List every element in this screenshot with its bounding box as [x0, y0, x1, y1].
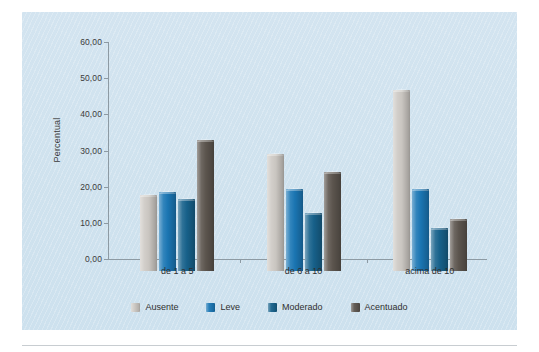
y-tick-mark — [104, 42, 108, 43]
legend-label: Acentuado — [365, 302, 408, 312]
bar-cap — [140, 194, 157, 197]
y-tick-mark — [104, 223, 108, 224]
x-axis-group-label: de 6 a 10 — [285, 266, 323, 276]
legend-label: Moderado — [282, 302, 323, 312]
y-tick-mark — [104, 114, 108, 115]
plot-area: 0,0010,0020,0030,0040,0050,0060,00 de 1 … — [108, 42, 488, 271]
bar-cap — [450, 218, 467, 221]
bar — [286, 189, 303, 271]
legend-item[interactable]: Moderado — [268, 302, 323, 312]
bar — [140, 195, 157, 271]
bar-cap — [393, 89, 410, 92]
bar-cap — [159, 191, 176, 194]
y-tick-mark — [104, 151, 108, 152]
bar-cap — [197, 139, 214, 142]
legend-swatch — [351, 303, 360, 312]
legend-swatch — [268, 303, 277, 312]
y-tick-label: 20,00 — [80, 182, 102, 192]
y-tick-label: 50,00 — [80, 73, 102, 83]
legend-swatch — [206, 303, 215, 312]
y-tick-label: 0,00 — [85, 254, 102, 264]
y-tick-mark — [104, 78, 108, 79]
x-tick-mark — [367, 259, 368, 263]
bar-cap — [305, 212, 322, 215]
y-tick-mark — [104, 187, 108, 188]
chart-legend: AusenteLeveModeradoAcentuado — [22, 302, 517, 312]
bar — [450, 219, 467, 271]
chart-panel: Percentual 0,0010,0020,0030,0040,0050,00… — [22, 12, 517, 330]
legend-swatch — [131, 303, 140, 312]
bar — [393, 90, 410, 271]
bar — [159, 192, 176, 271]
x-axis-group-label: de 1 a 5 — [161, 266, 194, 276]
legend-item[interactable]: Ausente — [131, 302, 178, 312]
bar — [305, 213, 322, 271]
bar — [412, 189, 429, 271]
legend-label: Leve — [220, 302, 240, 312]
y-tick-mark — [104, 259, 108, 260]
legend-item[interactable]: Acentuado — [351, 302, 408, 312]
y-tick-label: 60,00 — [80, 37, 102, 47]
bar-cap — [324, 171, 341, 174]
bar — [431, 228, 448, 271]
y-tick-label: 30,00 — [80, 146, 102, 156]
bar-cap — [412, 188, 429, 191]
legend-item[interactable]: Leve — [206, 302, 240, 312]
bar — [197, 140, 214, 271]
bottom-divider — [22, 345, 517, 346]
bar — [324, 172, 341, 271]
bar — [178, 199, 195, 271]
x-tick-mark — [240, 259, 241, 263]
y-tick-label: 10,00 — [80, 218, 102, 228]
y-tick-label: 40,00 — [80, 109, 102, 119]
x-axis-group-label: acima de 10 — [405, 266, 454, 276]
bar-cap — [286, 188, 303, 191]
legend-label: Ausente — [145, 302, 178, 312]
bar — [267, 154, 284, 271]
bar-cap — [431, 227, 448, 230]
y-axis-title: Percentual — [52, 117, 62, 162]
bar-cap — [178, 198, 195, 201]
y-axis-line — [108, 42, 109, 259]
bar-cap — [267, 153, 284, 156]
